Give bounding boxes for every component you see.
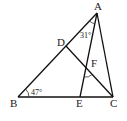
label-d: D (57, 36, 65, 48)
segment-dc (66, 46, 113, 97)
angle-label-b: 47° (31, 88, 42, 97)
geometry-diagram: A B C D E F 47° 31° (0, 0, 127, 121)
angle-arc-a (90, 21, 95, 24)
label-a: A (94, 0, 102, 12)
label-b: B (10, 97, 17, 109)
angle-arc-f (84, 75, 92, 78)
angle-label-a: 31° (80, 31, 91, 40)
segment-ae (80, 13, 97, 97)
label-f: F (91, 57, 97, 69)
segment-ab (18, 13, 97, 97)
angle-arc-b (26, 89, 30, 97)
label-e: E (76, 97, 83, 109)
label-c: C (110, 97, 117, 109)
segment-ac (97, 13, 113, 97)
